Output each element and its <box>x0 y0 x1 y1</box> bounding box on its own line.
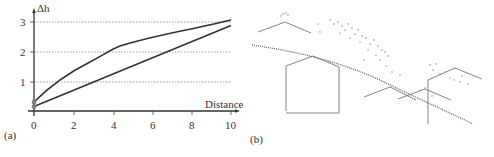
x-tick-6: 6 <box>150 119 156 131</box>
chart-b <box>252 22 482 124</box>
x-axis-label: Distance <box>205 98 244 110</box>
panel-label-a: (a) <box>4 129 17 142</box>
x-tick-8: 8 <box>189 119 195 131</box>
roof-outline-4 <box>428 68 482 80</box>
y-axis-arrow-icon <box>32 8 36 13</box>
marker-lower-start <box>32 105 36 109</box>
figure: Δh Distance 3 2 1 0 2 4 6 8 10 (a) <box>0 0 494 157</box>
x-tick-10: 10 <box>225 119 237 131</box>
marker-upper-start <box>32 100 36 104</box>
panel-label-b: (b) <box>250 133 263 146</box>
series-upper-curve <box>34 20 231 102</box>
series-lower-line <box>34 26 231 107</box>
scatter-points <box>280 12 468 97</box>
x-tick-0: 0 <box>31 119 37 131</box>
y-tick-1: 1 <box>20 76 26 88</box>
point-cloud-line <box>252 45 473 124</box>
y-axis-label: Δh <box>37 2 50 14</box>
chart-a: Δh Distance 3 2 1 0 2 4 6 8 10 (a) <box>4 2 244 142</box>
roof-outline-1 <box>258 22 311 33</box>
x-tick-4: 4 <box>111 119 117 131</box>
house-outline <box>286 56 339 113</box>
y-tick-3: 3 <box>20 16 26 28</box>
y-tick-2: 2 <box>20 46 26 58</box>
x-tick-2: 2 <box>71 119 77 131</box>
